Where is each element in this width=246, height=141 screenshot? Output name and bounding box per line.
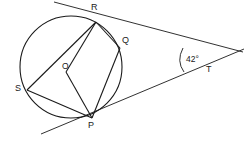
chord-R-S <box>27 22 96 90</box>
point-label-R: R <box>91 3 98 12</box>
point-label-S: S <box>15 84 21 93</box>
chord-R-Q <box>96 22 120 48</box>
chord-O-P <box>66 72 92 118</box>
angle-label-42-degrees: 42° <box>186 55 199 64</box>
point-label-P: P <box>88 121 94 130</box>
circle-outline <box>20 16 122 118</box>
geometry-diagram: R Q P S T O 42° <box>0 0 246 141</box>
chord-Q-P <box>92 48 120 118</box>
chord-S-P <box>27 90 92 118</box>
circle-center-label-O: O <box>62 62 69 71</box>
angle-arc-at-T <box>180 48 184 72</box>
point-label-Q: Q <box>122 36 129 45</box>
point-label-T: T <box>206 65 212 74</box>
tangent-at-P-line <box>41 49 244 134</box>
